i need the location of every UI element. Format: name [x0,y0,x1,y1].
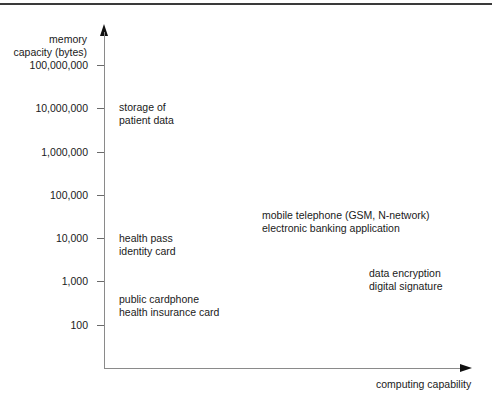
y-tick-label: 10,000 [56,232,88,244]
y-axis-title-line2: capacity (bytes) [13,46,87,59]
x-axis-title: computing capability [376,378,471,390]
y-tick [97,65,104,66]
x-axis-arrow-icon [460,364,472,372]
y-tick-label: 10,000,000 [35,102,88,114]
y-tick [97,108,104,109]
y-tick [97,238,104,239]
annotation-mobile-telephone: mobile telephone (GSM, N-network) electr… [262,209,429,235]
y-tick [97,325,104,326]
annotation-data-encryption: data encryption digital signature [369,267,443,293]
header-rule [0,3,492,5]
x-axis [104,368,464,369]
y-tick [97,281,104,282]
y-tick [97,195,104,196]
y-tick-label: 1,000,000 [41,146,88,158]
y-axis-title: memory capacity (bytes) [13,33,87,59]
y-axis [104,32,105,369]
y-tick [97,152,104,153]
annotation-cardphone: public cardphone health insurance card [119,293,219,319]
annotation-patient-data: storage of patient data [119,101,174,127]
y-tick-label: 1,000 [62,275,88,287]
y-tick-label: 100,000 [50,189,88,201]
y-tick-label: 100 [70,319,88,331]
annotation-health-pass: health pass identity card [119,232,176,258]
y-tick-label: 100,000,000 [30,59,88,71]
y-axis-title-line1: memory [13,33,87,46]
